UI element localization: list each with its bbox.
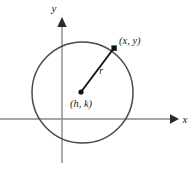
radius-segment: [81, 48, 114, 92]
radius-label: r: [99, 66, 103, 76]
center-point-marker: [78, 89, 83, 94]
y-axis-label: y: [51, 2, 57, 14]
circle-diagram-figure: y x (x, y) (h, k) r: [0, 0, 193, 171]
circle-diagram-canvas: y x (x, y) (h, k) r: [0, 0, 193, 171]
x-axis-label: x: [182, 113, 188, 125]
point-on-circle-label: (x, y): [119, 35, 141, 47]
x-axis-arrowhead-icon: [170, 114, 179, 124]
y-axis-arrowhead-icon: [57, 17, 66, 27]
center-point-label: (h, k): [70, 98, 93, 110]
circle-point-marker: [111, 45, 116, 50]
